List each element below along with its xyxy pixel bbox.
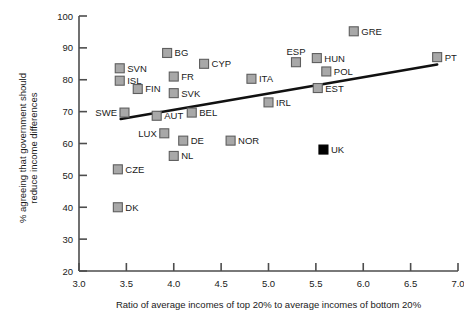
point-label-fr: FR: [181, 71, 194, 82]
scatter-chart: 2030405060708090100 3.03.54.04.55.05.56.…: [0, 0, 464, 317]
marker-isl: [115, 76, 124, 85]
y-tick-label: 20: [62, 266, 73, 277]
data-point-cze: CZE: [113, 164, 144, 175]
point-label-uk: UK: [331, 144, 345, 155]
point-label-de: DE: [191, 135, 204, 146]
point-label-nor: NOR: [238, 135, 259, 146]
point-label-esp: ESP: [286, 46, 305, 57]
data-point-uk: UK: [319, 144, 345, 155]
y-tick-label: 70: [62, 106, 73, 117]
marker-uk: [319, 145, 328, 154]
point-label-bg: BG: [175, 47, 189, 58]
data-point-dk: DK: [113, 202, 139, 213]
x-tick-label: 5.5: [309, 278, 322, 289]
point-label-dk: DK: [125, 202, 139, 213]
x-tick-label: 4.5: [215, 278, 228, 289]
data-point-esp: ESP: [286, 46, 305, 67]
data-point-cyp: CYP: [200, 58, 232, 69]
marker-swe: [120, 108, 129, 117]
x-tick-label: 7.0: [451, 278, 464, 289]
marker-bg: [163, 48, 172, 57]
x-axis: 3.03.54.04.55.05.56.06.57.0: [72, 263, 464, 289]
point-label-swe: SWE: [95, 107, 117, 118]
data-point-pol: POL: [322, 66, 353, 77]
data-point-aut: AUT: [152, 110, 183, 121]
point-label-gre: GRE: [361, 26, 382, 37]
data-point-ita: ITA: [247, 73, 274, 84]
marker-hun: [312, 54, 321, 63]
marker-cze: [113, 165, 122, 174]
data-point-hun: HUN: [312, 53, 345, 64]
data-point-nl: NL: [169, 150, 193, 161]
marker-cyp: [200, 59, 209, 68]
point-label-cze: CZE: [125, 164, 144, 175]
y-axis: 2030405060708090100: [57, 11, 87, 277]
point-label-ita: ITA: [259, 73, 274, 84]
marker-svk: [169, 89, 178, 98]
marker-esp: [291, 58, 300, 67]
data-point-nor: NOR: [226, 135, 259, 146]
marker-gre: [349, 27, 358, 36]
point-label-aut: AUT: [164, 110, 183, 121]
data-point-bg: BG: [163, 47, 189, 58]
y-axis-title-line-1: % agreeing that government should: [17, 73, 28, 223]
marker-pol: [322, 67, 331, 76]
axis-titles: Ratio of average incomes of top 20% to a…: [17, 73, 422, 310]
x-tick-label: 3.0: [72, 278, 85, 289]
point-label-hun: HUN: [324, 53, 345, 64]
point-label-pol: POL: [334, 66, 353, 77]
y-tick-label: 60: [62, 138, 73, 149]
marker-bel: [187, 108, 196, 117]
data-point-bel: BEL: [187, 107, 217, 118]
marker-fin: [133, 84, 142, 93]
x-tick-label: 4.0: [167, 278, 180, 289]
data-point-irl: IRL: [264, 97, 291, 108]
data-point-swe: SWE: [95, 107, 129, 118]
plot-area: 2030405060708090100 3.03.54.04.55.05.56.…: [0, 0, 464, 317]
marker-dk: [113, 203, 122, 212]
point-label-bel: BEL: [199, 107, 217, 118]
y-tick-label: 100: [57, 11, 73, 22]
point-label-lux: LUX: [138, 128, 157, 139]
x-tick-label: 5.0: [262, 278, 275, 289]
marker-fr: [169, 72, 178, 81]
data-points: BGCYPGRESVNISLFINFRSVKITAESPHUNPOLESTIRL…: [95, 26, 457, 213]
y-tick-label: 80: [62, 74, 73, 85]
point-label-svk: SVK: [181, 88, 201, 99]
data-point-svn: SVN: [115, 63, 147, 74]
point-label-est: EST: [325, 83, 344, 94]
x-tick-label: 3.5: [120, 278, 133, 289]
data-point-de: DE: [179, 135, 204, 146]
data-point-fr: FR: [169, 71, 194, 82]
marker-irl: [264, 98, 273, 107]
point-label-fin: FIN: [145, 83, 160, 94]
x-tick-label: 6.5: [404, 278, 417, 289]
point-label-irl: IRL: [276, 97, 291, 108]
data-point-gre: GRE: [349, 26, 382, 37]
marker-de: [179, 136, 188, 145]
data-point-pt: PT: [433, 52, 457, 63]
marker-aut: [152, 111, 161, 120]
marker-pt: [433, 53, 442, 62]
y-tick-label: 40: [62, 202, 73, 213]
y-tick-label: 50: [62, 170, 73, 181]
data-point-svk: SVK: [169, 88, 201, 99]
marker-lux: [160, 129, 169, 138]
point-label-pt: PT: [445, 52, 457, 63]
y-axis-title-line-2: reduce income differences: [28, 92, 39, 203]
marker-nor: [226, 136, 235, 145]
data-point-est: EST: [313, 83, 344, 94]
y-tick-label: 90: [62, 42, 73, 53]
marker-est: [313, 84, 322, 93]
x-axis-title: Ratio of average incomes of top 20% to a…: [116, 299, 422, 310]
point-label-svn: SVN: [127, 63, 147, 74]
point-label-nl: NL: [181, 150, 193, 161]
marker-ita: [247, 74, 256, 83]
y-axis-title: % agreeing that government shouldreduce …: [17, 73, 39, 223]
marker-svn: [115, 64, 124, 73]
x-tick-label: 6.0: [357, 278, 370, 289]
point-label-cyp: CYP: [212, 58, 232, 69]
data-point-fin: FIN: [133, 83, 160, 94]
marker-nl: [169, 151, 178, 160]
data-point-lux: LUX: [138, 128, 168, 139]
